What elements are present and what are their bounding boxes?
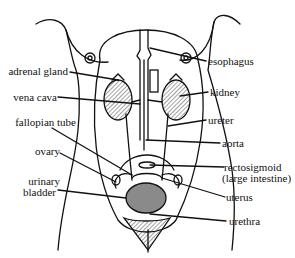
label-fallopian-tube: fallopian tube: [2, 117, 76, 128]
ureter-left: [126, 114, 132, 180]
label-kidney: kidney: [210, 87, 240, 98]
urinary-bladder: [126, 183, 166, 213]
uterus: [132, 174, 162, 179]
label-ovary: ovary: [2, 146, 60, 157]
label-vena-cava: vena cava: [2, 92, 57, 103]
label-adrenal-gland: adrenal gland: [2, 66, 68, 77]
ureter-right: [162, 114, 168, 180]
label-bladder: bladder: [2, 187, 56, 198]
label-uterus: uterus: [226, 192, 253, 203]
kidney-left: [104, 80, 132, 120]
esophagus: [137, 30, 140, 140]
kidney-right: [162, 80, 190, 120]
label-urethra: urethra: [229, 216, 260, 227]
label-large-intestine: (large intestine): [222, 173, 291, 184]
label-esophagus: esophagus: [208, 56, 254, 67]
label-ureter: ureter: [208, 115, 234, 126]
body-outline-left: [36, 20, 79, 250]
label-aorta: aorta: [222, 138, 244, 149]
